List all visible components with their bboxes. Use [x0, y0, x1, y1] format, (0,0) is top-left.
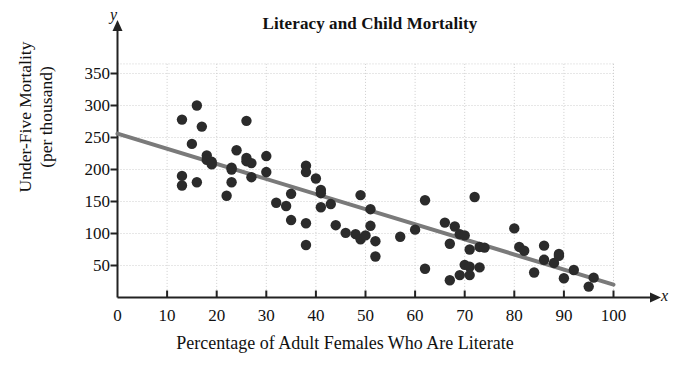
x-axis-label: Percentage of Adult Females Who Are Lite… [60, 333, 630, 354]
scatter-point [365, 204, 375, 214]
x-axis-tick-label: 70 [445, 306, 485, 326]
scatter-point [246, 172, 256, 182]
scatter-point [340, 228, 350, 238]
scatter-point [469, 192, 479, 202]
scatter-point [281, 201, 291, 211]
scatter-point [445, 275, 455, 285]
scatter-point [316, 202, 326, 212]
scatter-point [370, 236, 380, 246]
scatter-point [231, 145, 241, 155]
scatter-point [261, 167, 271, 177]
scatter-point [569, 265, 579, 275]
scatter-point [455, 270, 465, 280]
y-axis-variable-letter: y [110, 6, 117, 24]
x-axis-arrowhead [650, 293, 661, 303]
scatter-point [529, 267, 539, 277]
x-axis-tick-label: 30 [246, 306, 286, 326]
scatter-point [226, 177, 236, 187]
scatter-point [559, 273, 569, 283]
scatter-point [192, 177, 202, 187]
scatter-point [177, 171, 187, 181]
y-axis-tick-label: 50 [64, 256, 110, 276]
scatter-point [301, 240, 311, 250]
scatter-point [286, 215, 296, 225]
scatter-point [365, 221, 375, 231]
scatter-point [301, 218, 311, 228]
y-axis-tick-label: 250 [64, 128, 110, 148]
y-axis-label-line1: Under-Five Mortality [14, 2, 36, 232]
x-axis-tick-label: 40 [296, 306, 336, 326]
scatter-points [177, 100, 599, 292]
y-axis-tick-label: 200 [64, 160, 110, 180]
y-axis-label: Under-Five Mortality (per thousand) [14, 2, 64, 232]
scatter-point [207, 159, 217, 169]
y-axis-label-line2: (per thousand) [36, 2, 57, 232]
scatter-point [261, 151, 271, 161]
y-axis-tick-label: 100 [64, 224, 110, 244]
scatter-point [221, 191, 231, 201]
y-axis-tick-label: 300 [64, 96, 110, 116]
scatter-point [316, 188, 326, 198]
scatter-point [420, 195, 430, 205]
scatter-point [271, 198, 281, 208]
scatter-point [326, 199, 336, 209]
scatter-point [509, 223, 519, 233]
scatter-point [331, 220, 341, 230]
scatter-point [474, 262, 484, 272]
x-axis-variable-letter: x [661, 287, 668, 305]
y-axis-tick-label: 150 [64, 192, 110, 212]
scatter-point [539, 240, 549, 250]
scatter-point [395, 232, 405, 242]
scatter-point [370, 251, 380, 261]
x-axis-tick-label: 50 [346, 306, 386, 326]
scatter-point [464, 270, 474, 280]
scatter-point [445, 239, 455, 249]
scatter-point [440, 217, 450, 227]
scatter-point [197, 121, 207, 131]
x-axis-tick-label: 80 [494, 306, 534, 326]
x-axis-tick-labels: 0102030405060708090100 [0, 306, 686, 332]
scatter-point [420, 264, 430, 274]
scatter-point [177, 114, 187, 124]
scatter-point [286, 189, 296, 199]
scatter-point [311, 173, 321, 183]
scatter-point [410, 224, 420, 234]
scatter-point [360, 230, 370, 240]
scatter-point [192, 100, 202, 110]
scatter-point [187, 139, 197, 149]
scatter-point [584, 281, 594, 291]
scatter-point [301, 167, 311, 177]
scatter-point [479, 242, 489, 252]
x-axis-tick-label: 10 [147, 306, 187, 326]
x-axis-tick-label: 90 [544, 306, 584, 326]
scatter-point [554, 251, 564, 261]
scatter-point [519, 246, 529, 256]
scatter-point [177, 180, 187, 190]
chart-title: Literacy and Child Mortality [170, 14, 570, 34]
x-axis-tick-label: 0 [98, 306, 138, 326]
y-axis-tick-label: 350 [64, 64, 110, 84]
x-axis-tick-label: 100 [594, 306, 634, 326]
scatter-point [246, 158, 256, 168]
scatter-point [460, 230, 470, 240]
scatter-point [226, 164, 236, 174]
x-axis-tick-label: 20 [197, 306, 237, 326]
scatter-point [241, 116, 251, 126]
chart-figure: Literacy and Child Mortality Under-Five … [0, 0, 686, 366]
scatter-point [539, 255, 549, 265]
axis-lines [113, 20, 662, 303]
x-axis-tick-label: 60 [395, 306, 435, 326]
scatter-point [464, 244, 474, 254]
scatter-point [355, 190, 365, 200]
scatter-point [588, 272, 598, 282]
